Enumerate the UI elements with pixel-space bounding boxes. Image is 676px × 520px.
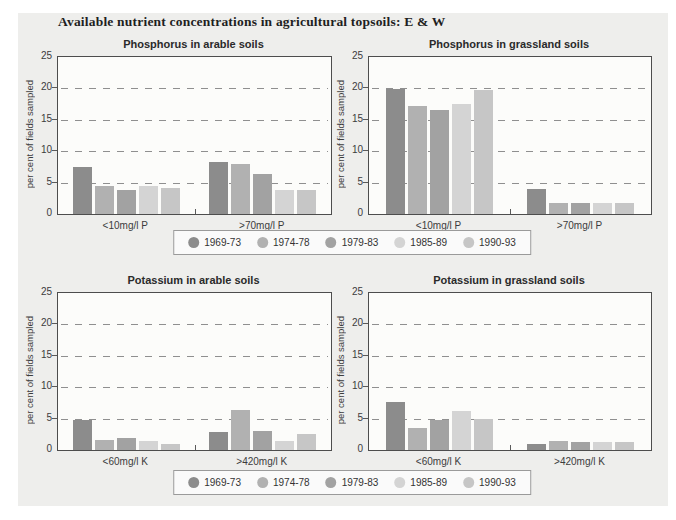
legend-label: 1974-78 (273, 237, 310, 248)
plot-area (368, 292, 652, 451)
y-tick-mark (52, 150, 57, 151)
bar-group-2 (510, 189, 651, 214)
y-tick-label: 0 (24, 444, 52, 454)
bar-1979-83 (117, 438, 136, 450)
legend-swatch-icon (463, 237, 474, 248)
bar-1985-89 (452, 104, 471, 214)
y-tick-mark (363, 386, 368, 387)
y-tick-mark (363, 182, 368, 183)
bar-1979-83 (253, 431, 272, 450)
y-tick-label: 20 (335, 82, 363, 92)
bar-1990-93 (161, 188, 180, 214)
plot-area (368, 56, 652, 215)
bar-1990-93 (297, 190, 316, 214)
y-axis-label: per cent of fields sampled (22, 292, 36, 449)
y-tick-mark (52, 323, 57, 324)
y-tick-label: 15 (24, 114, 52, 124)
y-tick-label: 10 (335, 381, 363, 391)
y-tick-label: 15 (24, 350, 52, 360)
legend-swatch-icon (188, 477, 199, 488)
bar-1974-78 (549, 441, 568, 450)
y-tick-label: 0 (24, 208, 52, 218)
bar-1990-93 (297, 434, 316, 450)
y-axis-label-text: per cent of fields sampled (335, 80, 346, 188)
bar-group-2 (510, 441, 651, 450)
legend-entry-1974-78: 1974-78 (257, 237, 310, 248)
legend-entry-1979-83: 1979-83 (326, 477, 379, 488)
bar-1990-93 (615, 203, 634, 214)
page: { "page": { "title": "Available nutrient… (0, 0, 676, 520)
y-tick-label: 15 (335, 114, 363, 124)
bar-1985-89 (139, 186, 158, 214)
bar-1985-89 (593, 203, 612, 214)
y-tick-mark (52, 418, 57, 419)
y-tick-mark (363, 87, 368, 88)
bar-1969-73 (386, 89, 405, 214)
bar-1974-78 (231, 164, 250, 214)
y-tick-label: 15 (335, 350, 363, 360)
y-axis-label-text: per cent of fields sampled (335, 316, 346, 424)
x-category-label: >420mg/l K (194, 456, 331, 467)
gridline-15 (61, 356, 328, 357)
y-axis-label: per cent of fields sampled (333, 56, 347, 213)
bar-1985-89 (593, 442, 612, 450)
bar-1985-89 (452, 411, 471, 450)
bar-1969-73 (73, 420, 92, 450)
x-category-label: <60mg/l K (57, 456, 194, 467)
bar-group-1 (58, 167, 195, 214)
bar-1990-93 (474, 419, 493, 450)
bar-1979-83 (571, 442, 590, 450)
y-tick-label: 5 (335, 177, 363, 187)
legend-swatch-icon (326, 477, 337, 488)
chart-title: Phosphorus in grassland soils (368, 38, 650, 50)
gridline-20 (61, 88, 328, 89)
bar-1985-89 (139, 441, 158, 450)
bar-1974-78 (231, 410, 250, 450)
legend-entry-1985-89: 1985-89 (394, 237, 447, 248)
gridline-15 (61, 120, 328, 121)
x-axis-center-tick (195, 445, 196, 450)
y-tick-mark (52, 119, 57, 120)
y-axis-label-text: per cent of fields sampled (24, 316, 35, 424)
bar-1969-73 (527, 189, 546, 214)
bar-1969-73 (209, 432, 228, 450)
y-tick-label: 25 (335, 51, 363, 61)
bar-1979-83 (253, 174, 272, 214)
bar-1985-89 (275, 190, 294, 214)
y-tick-label: 20 (335, 318, 363, 328)
legend-label: 1979-83 (342, 237, 379, 248)
legend-label: 1969-73 (204, 477, 241, 488)
gridline-15 (372, 356, 648, 357)
bar-1974-78 (408, 428, 427, 450)
y-tick-mark (363, 323, 368, 324)
y-tick-label: 0 (335, 444, 363, 454)
y-tick-mark (52, 182, 57, 183)
bar-1979-83 (430, 110, 449, 214)
plot-area (57, 56, 332, 215)
gridline-10 (61, 387, 328, 388)
bar-1969-73 (386, 402, 405, 450)
y-tick-label: 10 (24, 145, 52, 155)
legend-entry-1979-83: 1979-83 (326, 237, 379, 248)
bar-1969-73 (73, 167, 92, 214)
legend-swatch-icon (257, 237, 268, 248)
y-tick-label: 25 (24, 287, 52, 297)
x-axis-center-tick (510, 209, 511, 214)
bar-1969-73 (209, 162, 228, 214)
y-tick-label: 5 (24, 413, 52, 423)
gridline-20 (61, 324, 328, 325)
y-tick-label: 0 (335, 208, 363, 218)
legend-entry-1969-73: 1969-73 (188, 237, 241, 248)
y-tick-label: 25 (335, 287, 363, 297)
bar-group-1 (58, 420, 195, 450)
y-tick-mark (363, 150, 368, 151)
bar-1979-83 (571, 203, 590, 214)
legend-label: 1990-93 (479, 477, 516, 488)
bar-group-1 (369, 89, 510, 214)
plot-area (57, 292, 332, 451)
bar-1974-78 (95, 186, 114, 214)
legend-label: 1985-89 (410, 237, 447, 248)
legend-label: 1990-93 (479, 237, 516, 248)
legend-label: 1985-89 (410, 477, 447, 488)
bar-1974-78 (95, 440, 114, 450)
